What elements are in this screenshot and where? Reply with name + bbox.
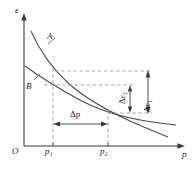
delta-p-label: Δp <box>70 110 80 119</box>
delta-eps2-arrow-bottom <box>128 107 132 114</box>
delta-eps2-label: Δε₂ <box>118 92 127 104</box>
delta-eps2-measure <box>128 85 132 113</box>
guide-lines <box>44 68 152 146</box>
delta-p-arrow-right <box>101 122 108 127</box>
curve-label-a: A <box>47 32 53 41</box>
delta-eps2-arrow-top <box>128 85 132 92</box>
delta-p-arrow-left <box>53 122 60 127</box>
curve-label-b: B <box>26 82 32 91</box>
axis-group <box>21 13 185 149</box>
delta-p-measure <box>53 122 108 127</box>
y-axis-label: ε <box>15 6 19 15</box>
x-tick-label-p1: p₁ <box>45 147 53 156</box>
curve-B <box>25 66 176 125</box>
delta-eps1-label: Δε₁ <box>143 100 152 112</box>
y-axis-arrowhead <box>21 13 26 21</box>
origin-label: O <box>12 147 19 156</box>
x-axis-arrowhead <box>178 143 186 148</box>
x-axis-label: p <box>182 150 187 159</box>
elasticity-diagram: ε p O p₁ p₂ A B Δp Δε₂ Δε₁ <box>0 0 195 169</box>
x-tick-label-p2: p₂ <box>100 147 108 156</box>
